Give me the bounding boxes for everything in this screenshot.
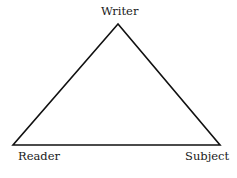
vertex-label-subject: Subject <box>185 151 229 163</box>
triangle-shape <box>13 24 220 145</box>
vertex-label-writer: Writer <box>101 6 138 18</box>
vertex-label-reader: Reader <box>18 151 60 163</box>
